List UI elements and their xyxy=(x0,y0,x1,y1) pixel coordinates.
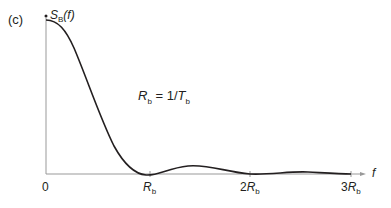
formula-mid: = 1/ xyxy=(152,88,178,103)
y-axis-label-main: S xyxy=(50,8,58,22)
y-axis-label-arg: (f) xyxy=(63,8,74,22)
chart-canvas xyxy=(0,0,391,208)
panel-label: (c) xyxy=(8,12,23,27)
formula-rhs-sub: b xyxy=(185,97,189,106)
tick-label-2rb: 2Rb xyxy=(240,180,260,196)
annotation-formula: Rb = 1/Tb xyxy=(138,88,190,106)
x-axis-label-text: f xyxy=(372,166,375,180)
tick-label-rb: Rb xyxy=(143,180,156,196)
tick-label-2rb-pre: 2 xyxy=(240,180,247,194)
tick-label-rb-main: R xyxy=(143,180,152,194)
tick-label-rb-sub: b xyxy=(152,187,156,196)
formula-lhs: R xyxy=(138,88,147,103)
tick-label-3rb-sub: b xyxy=(356,187,360,196)
tick-label-3rb: 3Rb xyxy=(341,180,361,196)
x-axis-label: f xyxy=(372,166,375,180)
x-axis-arrow xyxy=(360,172,366,176)
psd-curve xyxy=(46,20,351,175)
tick-label-0: 0 xyxy=(42,180,49,194)
y-axis-label: SB(f) xyxy=(50,8,75,24)
y-axis-arrow xyxy=(45,15,48,18)
tick-label-2rb-sub: b xyxy=(255,187,259,196)
tick-label-3rb-pre: 3 xyxy=(341,180,348,194)
